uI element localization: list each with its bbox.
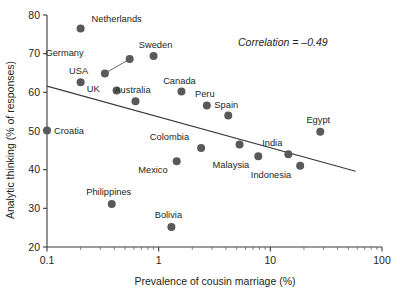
data-point-marker — [254, 152, 262, 160]
x-tick-label: 10 — [264, 254, 276, 266]
data-point-label: India — [262, 138, 283, 148]
data-point-label: Spain — [214, 100, 238, 110]
data-point-marker — [77, 25, 85, 33]
data-point-label: Australia — [114, 85, 151, 95]
x-tick-label: 0.1 — [40, 254, 55, 266]
data-point-marker — [77, 78, 85, 86]
data-point-marker — [150, 52, 158, 60]
data-point-marker — [197, 144, 205, 152]
y-tick-label: 50 — [28, 125, 40, 137]
data-point-label: Netherlands — [92, 14, 142, 24]
data-point-marker — [108, 200, 116, 208]
data-point-label: Philippines — [86, 187, 131, 197]
data-point-label: Germany — [45, 48, 84, 58]
data-point-label: Croatia — [54, 126, 85, 136]
data-point-marker — [167, 223, 175, 231]
x-tick-label: 1 — [156, 254, 162, 266]
data-point-marker — [284, 150, 292, 158]
scatter-chart: 203040506070800.1110100 NetherlandsSwede… — [0, 0, 400, 301]
x-axis-title: Prevalence of cousin marriage (%) — [134, 275, 295, 287]
y-tick-label: 70 — [28, 47, 40, 59]
correlation-annotation: Correlation = –0.49 — [238, 36, 328, 48]
y-axis-title: Analytic thinking (% of responses) — [4, 61, 16, 219]
y-tick-label: 30 — [28, 202, 40, 214]
chart-svg: 203040506070800.1110100 NetherlandsSwede… — [0, 0, 400, 301]
data-point-marker — [177, 88, 185, 96]
data-point-label: Peru — [195, 89, 215, 99]
data-point-label: Egypt — [306, 115, 330, 125]
data-point-label: Colombia — [150, 132, 190, 142]
data-point-marker — [224, 112, 232, 120]
data-point-marker — [131, 97, 139, 105]
data-point-label: Bolivia — [155, 210, 183, 220]
x-tick-label: 100 — [373, 254, 391, 266]
data-point-label: Sweden — [139, 40, 173, 50]
data-point-label: Indonesia — [251, 170, 292, 180]
data-point-marker — [43, 127, 51, 135]
data-point-marker — [236, 141, 244, 149]
y-tick-label: 20 — [28, 241, 40, 253]
label-leader-line — [105, 59, 130, 73]
data-point-label: UK — [87, 84, 101, 94]
data-points — [43, 25, 324, 231]
data-point-marker — [203, 101, 211, 109]
data-point-marker — [296, 162, 304, 170]
data-point-label: USA — [69, 66, 89, 76]
y-tick-label: 40 — [28, 163, 40, 175]
y-tick-label: 60 — [28, 86, 40, 98]
y-tick-label: 80 — [28, 9, 40, 21]
data-point-label: Mexico — [138, 165, 167, 175]
data-point-marker — [316, 128, 324, 136]
data-point-label: Malaysia — [213, 160, 251, 170]
data-point-label: Canada — [163, 76, 196, 86]
data-point-marker — [173, 157, 181, 165]
